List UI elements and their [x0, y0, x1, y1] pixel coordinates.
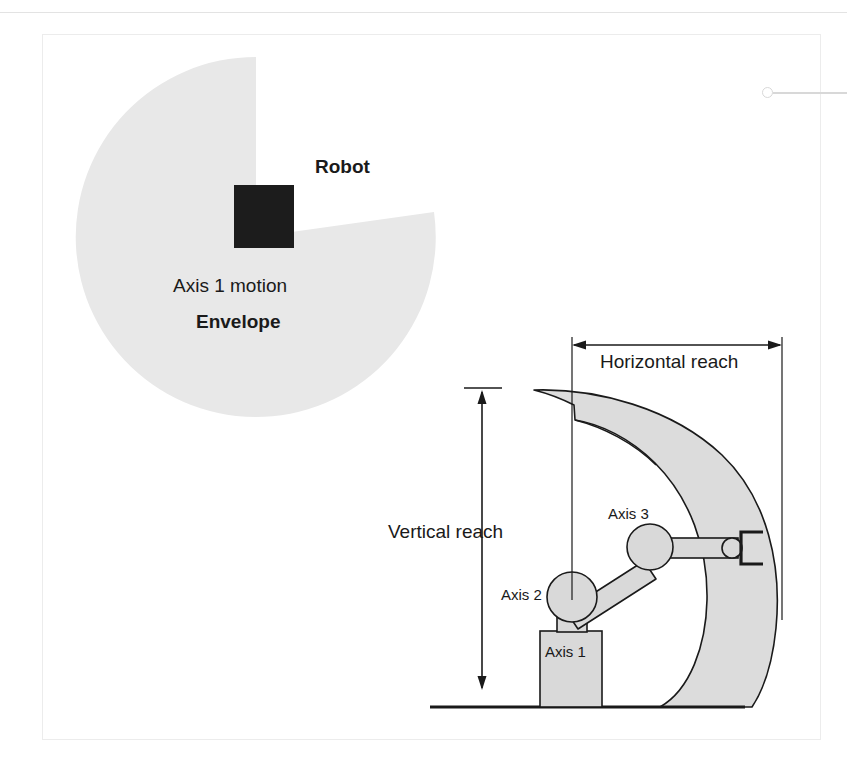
wrist-joint	[722, 538, 742, 558]
label-axis3: Axis 3	[608, 505, 649, 522]
diagram-canvas	[0, 0, 847, 773]
axis3-joint	[627, 524, 673, 570]
vertical-reach-arrowhead-bottom	[478, 676, 487, 690]
label-envelope: Envelope	[196, 311, 280, 333]
vertical-reach-arrowhead-top	[478, 390, 487, 404]
label-axis1-motion: Axis 1 motion	[173, 275, 287, 297]
figure-page: Robot Axis 1 motion Envelope Horizontal …	[0, 0, 847, 773]
robot-body-square	[234, 185, 294, 248]
label-horizontal-reach: Horizontal reach	[600, 351, 738, 373]
label-axis1: Axis 1	[545, 643, 586, 660]
horizontal-reach-arrowhead-right	[768, 341, 782, 350]
label-robot: Robot	[315, 156, 370, 178]
label-axis2: Axis 2	[501, 586, 542, 603]
horizontal-reach-arrowhead-left	[572, 341, 586, 350]
label-vertical-reach: Vertical reach	[388, 521, 503, 543]
plan-view-group	[76, 57, 436, 417]
